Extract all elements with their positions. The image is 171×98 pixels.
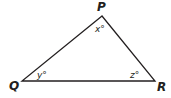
angle-label-q: y° [36, 70, 47, 80]
angle-label-r: z° [129, 70, 139, 80]
angle-label-p: x° [94, 24, 105, 34]
vertex-label-q: Q [9, 79, 19, 93]
vertex-label-p: P [97, 0, 106, 14]
triangle-diagram: P Q R x° y° z° [0, 0, 171, 98]
vertex-label-r: R [157, 80, 166, 94]
